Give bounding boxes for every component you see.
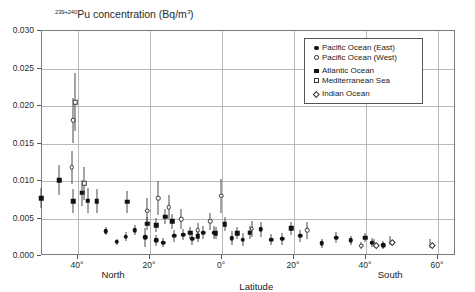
data-point bbox=[258, 227, 263, 232]
x-tick-mark bbox=[221, 255, 222, 259]
y-tick-mark bbox=[37, 255, 41, 256]
x-tick-mark bbox=[365, 255, 366, 259]
gridline-horizontal bbox=[42, 219, 454, 220]
x-tick-label: 60° bbox=[431, 260, 444, 270]
y-tick-label: 0.005 bbox=[0, 213, 34, 223]
data-point bbox=[156, 196, 161, 201]
gridline-vertical bbox=[78, 31, 79, 254]
data-point bbox=[334, 236, 339, 241]
legend-item-mediterranean-sea[interactable]: Mediterranean Sea bbox=[311, 76, 417, 86]
data-point bbox=[289, 226, 294, 231]
gridline-horizontal bbox=[42, 144, 454, 145]
data-point bbox=[348, 238, 353, 243]
data-point bbox=[359, 243, 364, 248]
data-point bbox=[213, 231, 218, 236]
legend-item-pacific-ocean-west[interactable]: Pacific Ocean (West) bbox=[311, 53, 417, 63]
open-circle-icon bbox=[311, 55, 322, 60]
chart-title-isotope: 239+240 bbox=[55, 9, 77, 15]
y-tick-label: 0.010 bbox=[0, 175, 34, 185]
data-point bbox=[57, 178, 62, 183]
data-point bbox=[280, 237, 285, 242]
y-tick-mark bbox=[37, 218, 41, 219]
legend-item-atlantic-ocean[interactable]: Atlantic Ocean bbox=[311, 66, 417, 76]
gridline-vertical bbox=[438, 31, 439, 254]
y-tick-label: 0.000 bbox=[0, 250, 34, 260]
x-tick-label: 20° bbox=[287, 260, 300, 270]
data-point bbox=[201, 230, 206, 235]
data-point bbox=[219, 194, 224, 199]
data-point bbox=[235, 231, 240, 236]
data-point bbox=[240, 237, 245, 242]
open-diamond-icon bbox=[311, 92, 322, 97]
x-tick-mark bbox=[77, 255, 78, 259]
legend-item-label: Mediterranean Sea bbox=[322, 76, 390, 86]
y-tick-mark bbox=[37, 180, 41, 181]
data-point bbox=[39, 196, 44, 201]
legend-item-pacific-ocean-east[interactable]: Pacific Ocean (East) bbox=[311, 43, 417, 53]
data-point bbox=[71, 199, 76, 204]
data-point bbox=[95, 199, 100, 204]
hemisphere-label-south: South bbox=[378, 269, 403, 280]
gridline-horizontal bbox=[42, 106, 454, 107]
y-tick-label: 0.030 bbox=[0, 25, 34, 35]
legend-item-indian-ocean[interactable]: Indian Ocean bbox=[311, 89, 417, 99]
chart-title-close: ) bbox=[190, 8, 194, 20]
data-point bbox=[181, 233, 186, 238]
data-point bbox=[179, 217, 184, 222]
y-tick-label: 0.020 bbox=[0, 100, 34, 110]
data-point bbox=[125, 200, 130, 205]
data-point bbox=[298, 234, 303, 239]
hemisphere-label-north: North bbox=[101, 269, 124, 280]
data-point bbox=[145, 221, 150, 226]
chart-title: 239+240Pu concentration (Bq/m3) bbox=[55, 8, 194, 20]
data-point bbox=[73, 100, 78, 105]
x-tick-mark bbox=[437, 255, 438, 259]
data-point bbox=[269, 237, 274, 242]
data-point bbox=[154, 223, 159, 228]
x-axis-label: Latitude bbox=[239, 281, 273, 292]
x-tick-label: 40° bbox=[359, 260, 372, 270]
data-point bbox=[381, 243, 386, 248]
data-point bbox=[208, 219, 213, 224]
x-tick-label: 20° bbox=[143, 260, 156, 270]
data-point bbox=[167, 205, 172, 210]
x-tick-mark bbox=[149, 255, 150, 259]
data-point bbox=[172, 234, 177, 239]
chart-title-main: Pu concentration (Bq/m bbox=[77, 8, 187, 20]
data-point bbox=[86, 198, 91, 203]
data-point bbox=[104, 229, 109, 234]
x-tick-label: 40° bbox=[71, 260, 84, 270]
data-point bbox=[230, 236, 235, 241]
data-point bbox=[145, 209, 150, 214]
legend-item-label: Pacific Ocean (West) bbox=[322, 53, 397, 63]
data-point bbox=[163, 215, 168, 220]
filled-circle-icon bbox=[311, 46, 322, 51]
open-square-icon bbox=[311, 78, 322, 83]
data-point bbox=[154, 238, 159, 243]
gridline-vertical bbox=[294, 31, 295, 254]
legend-item-label: Pacific Ocean (East) bbox=[322, 43, 395, 53]
data-point bbox=[248, 230, 253, 235]
chart-legend: Pacific Ocean (East)Pacific Ocean (West)… bbox=[304, 38, 423, 104]
data-point bbox=[114, 240, 119, 245]
data-point bbox=[363, 236, 368, 241]
data-point bbox=[123, 234, 128, 239]
data-point bbox=[161, 240, 166, 245]
filled-square-icon bbox=[311, 69, 322, 74]
y-tick-mark bbox=[37, 105, 41, 106]
data-point bbox=[143, 235, 148, 240]
x-tick-mark bbox=[293, 255, 294, 259]
data-point bbox=[69, 165, 74, 170]
y-tick-label: 0.025 bbox=[0, 63, 34, 73]
data-point bbox=[305, 228, 310, 233]
y-tick-label: 0.015 bbox=[0, 138, 34, 148]
x-tick-label: 0° bbox=[217, 260, 225, 270]
legend-item-label: Atlantic Ocean bbox=[322, 66, 374, 76]
y-tick-mark bbox=[37, 30, 41, 31]
data-point bbox=[195, 234, 200, 239]
gridline-vertical bbox=[222, 31, 223, 254]
data-point bbox=[320, 241, 325, 246]
y-tick-mark bbox=[37, 143, 41, 144]
gridline-horizontal bbox=[42, 181, 454, 182]
